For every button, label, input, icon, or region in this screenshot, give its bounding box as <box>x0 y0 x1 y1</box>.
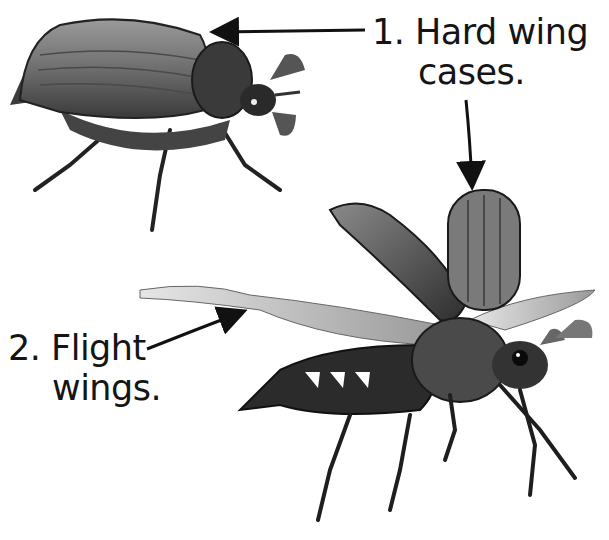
beetle-in-flight <box>140 190 595 520</box>
arrow-1-to-wing-case-in-flight <box>466 100 472 185</box>
label-flight-wings-line1: 2. Flight <box>8 328 161 368</box>
arrow-1-to-wing-case-at-rest <box>215 30 365 32</box>
label-flight-wings: 2. Flight wings. <box>8 328 161 408</box>
label-hard-wing-cases-line1: 1. Hard wing <box>372 12 588 52</box>
label-flight-wings-line2: wings. <box>8 368 161 408</box>
label-hard-wing-cases-line2: cases. <box>372 52 588 92</box>
beetle-at-rest <box>10 19 305 230</box>
arrow-2-to-flight-wing <box>147 312 242 349</box>
label-hard-wing-cases: 1. Hard wing cases. <box>372 12 588 92</box>
